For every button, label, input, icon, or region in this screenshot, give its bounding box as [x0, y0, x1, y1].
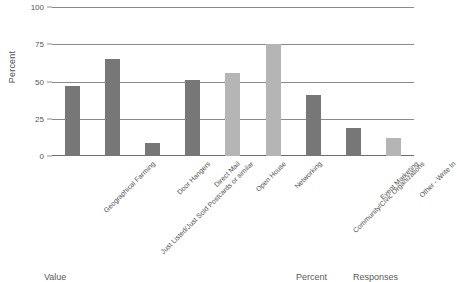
x-axis-label: Networking	[293, 160, 323, 190]
bar[interactable]	[266, 44, 281, 156]
x-axis-label: Community/Civic Organizations	[352, 160, 426, 234]
bar-series	[52, 7, 414, 156]
table-column-responses: Responses	[353, 272, 398, 282]
x-axis-label: Just Listed/Just Sold Postcards or simil…	[160, 160, 255, 255]
y-axis-title: Percent	[7, 37, 17, 97]
bar-slot	[213, 7, 253, 156]
y-tick-label-25: 25	[18, 114, 44, 123]
x-axis-label: Event Marketing	[378, 160, 419, 201]
bar-slot	[132, 7, 172, 156]
y-tick-label-0: 0	[18, 152, 44, 161]
bar-slot	[293, 7, 333, 156]
bar-slot	[374, 7, 414, 156]
bar-slot	[52, 7, 92, 156]
bar[interactable]	[346, 128, 361, 156]
table-column-percent: Percent	[296, 272, 327, 282]
bar-slot	[173, 7, 213, 156]
results-table-header: Value Percent Responses	[0, 268, 422, 282]
bar[interactable]	[306, 95, 321, 156]
plot-area	[52, 7, 414, 156]
table-column-value: Value	[44, 272, 66, 282]
x-axis-labels: Geographical FarmingJust Listed/Just Sol…	[52, 157, 414, 257]
bar-slot	[334, 7, 374, 156]
y-tick-label-75: 75	[18, 40, 44, 49]
y-tick-label-50: 50	[18, 77, 44, 86]
bar[interactable]	[65, 86, 80, 156]
bar[interactable]	[386, 138, 401, 156]
bar[interactable]	[185, 80, 200, 156]
x-axis-label: Door Hangers	[175, 160, 211, 196]
x-axis-label: Geographical Farming	[102, 160, 156, 214]
bar[interactable]	[105, 59, 120, 156]
bar[interactable]	[225, 73, 240, 156]
bar-slot	[92, 7, 132, 156]
x-axis-label: Open House	[255, 160, 288, 193]
bar-slot	[253, 7, 293, 156]
bar[interactable]	[145, 143, 160, 156]
y-tick-label-100: 100	[18, 3, 44, 12]
